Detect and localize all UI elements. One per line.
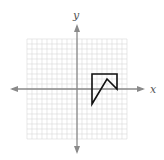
y-axis-arrow-down-icon bbox=[74, 146, 80, 154]
x-axis-arrow-left-icon bbox=[10, 86, 18, 92]
y-axis-label: y bbox=[72, 9, 80, 22]
coordinate-plane: x y bbox=[0, 0, 164, 160]
x-axis-label: x bbox=[150, 83, 157, 96]
y-axis-arrow-up-icon bbox=[74, 24, 80, 32]
x-axis-arrow-right-icon bbox=[137, 86, 145, 92]
